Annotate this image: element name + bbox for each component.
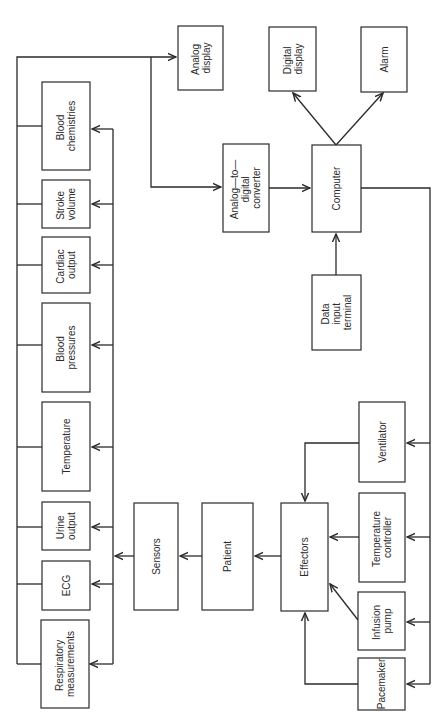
node-patient: Patient bbox=[202, 503, 253, 610]
svg-text:Alarm: Alarm bbox=[379, 46, 390, 72]
node-effectors: Effectors bbox=[281, 503, 328, 611]
svg-text:Digital display: Digital display bbox=[282, 43, 304, 74]
node-data-input-terminal: Data input terminal bbox=[312, 275, 361, 350]
node-alarm: Alarm bbox=[361, 27, 407, 92]
svg-text:Analog display: Analog display bbox=[190, 41, 212, 75]
node-digital-display: Digital display bbox=[269, 27, 316, 91]
node-pacemaker: Pacemaker bbox=[358, 658, 405, 710]
node-blood-chemistries: Blood chemistries bbox=[42, 82, 90, 170]
node-urine-output: Urine output bbox=[42, 502, 90, 550]
svg-text:Effectors: Effectors bbox=[299, 537, 310, 576]
svg-text:Respiratory measurements: Respiratory measurements bbox=[54, 631, 76, 697]
svg-text:Pacemaker: Pacemaker bbox=[376, 658, 387, 709]
svg-text:Temperature: Temperature bbox=[61, 418, 72, 475]
node-sensors: Sensors bbox=[134, 503, 178, 610]
svg-text:Patient: Patient bbox=[222, 541, 233, 572]
node-ad-converter: Analog—to— digital converter bbox=[223, 144, 269, 232]
node-computer: Computer bbox=[312, 145, 361, 232]
node-analog-display: Analog display bbox=[178, 26, 223, 90]
node-ventilator: Ventilator bbox=[359, 402, 405, 482]
node-stroke-volume: Stroke volume bbox=[42, 180, 90, 228]
node-temperature-controller: Temperature controller bbox=[359, 493, 405, 582]
node-ecg: ECG bbox=[42, 561, 90, 610]
node-cardiac-output: Cardiac output bbox=[42, 237, 90, 293]
svg-text:Urine output: Urine output bbox=[55, 512, 77, 540]
svg-text:Computer: Computer bbox=[331, 166, 342, 211]
svg-text:Stroke volume: Stroke volume bbox=[55, 187, 77, 220]
svg-text:Ventilator: Ventilator bbox=[377, 420, 388, 462]
svg-text:Sensors: Sensors bbox=[151, 538, 162, 575]
patient-monitoring-block-diagram: Analog display Digital display Alarm Ana… bbox=[0, 0, 446, 722]
svg-text:ECG: ECG bbox=[61, 574, 72, 596]
node-respiratory-measurements: Respiratory measurements bbox=[41, 620, 89, 708]
node-infusion-pump: Infusion pump bbox=[358, 592, 405, 650]
node-blood-pressures: Blood pressures bbox=[42, 303, 90, 392]
svg-text:Cardiac output: Cardiac output bbox=[55, 246, 77, 283]
node-temperature: Temperature bbox=[42, 402, 90, 491]
